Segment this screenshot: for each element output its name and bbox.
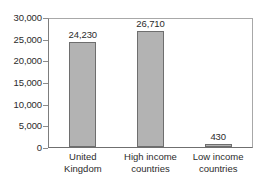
x-axis-category-label: UnitedKingdom — [49, 151, 117, 175]
bar-slot: 24,230 — [69, 19, 96, 147]
bar-slot: 26,710 — [137, 19, 164, 147]
bar-value-label: 24,230 — [69, 29, 97, 40]
y-axis-tick-label: 10,000 — [0, 100, 42, 110]
category-label-line: countries — [117, 163, 185, 175]
category-label-line: Low income — [184, 151, 252, 163]
category-label-line: Kingdom — [49, 163, 117, 175]
bar — [69, 42, 96, 147]
x-axis-category-labels: UnitedKingdomHigh incomecountriesLow inc… — [49, 151, 252, 185]
category-label-line: High income — [117, 151, 185, 163]
y-axis-tick-label: 15,000 — [0, 78, 42, 88]
y-axis-tick-label: 30,000 — [0, 13, 42, 23]
bar-chart: 05,00010,00015,00020,00025,00030,000 24,… — [0, 0, 271, 186]
bar — [137, 31, 164, 147]
x-axis-category-label: Low incomecountries — [184, 151, 252, 175]
bars-container: 24,23026,710430 — [49, 19, 252, 147]
y-axis-tick-label: 5,000 — [0, 121, 42, 131]
bar-value-label: 430 — [210, 131, 226, 142]
bar-value-label: 26,710 — [136, 18, 164, 29]
category-label-line: countries — [184, 163, 252, 175]
category-label-line: United — [49, 151, 117, 163]
bar-slot: 430 — [205, 19, 232, 147]
y-axis-tick-mark — [43, 148, 48, 149]
y-axis-tick-label: 20,000 — [0, 56, 42, 66]
y-axis-tick-label: 25,000 — [0, 35, 42, 45]
x-axis-category-label: High incomecountries — [117, 151, 185, 175]
y-axis-tick-label: 0 — [0, 143, 42, 153]
bar — [205, 144, 232, 147]
y-axis-labels: 05,00010,00015,00020,00025,00030,000 — [0, 0, 42, 186]
